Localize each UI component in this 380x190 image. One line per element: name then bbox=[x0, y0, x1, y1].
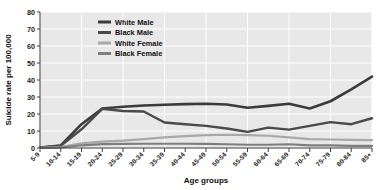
y-axis-label: Suicide rate per 100,000 bbox=[4, 34, 13, 126]
y-tick-label: 50 bbox=[27, 59, 35, 68]
y-tick-label: 30 bbox=[27, 93, 35, 102]
chart-figure: 01020304050607080 5-910-1415-1920-2425-2… bbox=[0, 0, 380, 190]
y-tick-label: 20 bbox=[27, 110, 35, 119]
legend-label-black-female: Black Female bbox=[115, 49, 162, 58]
legend-label-white-male: White Male bbox=[115, 18, 154, 27]
y-tick-label: 40 bbox=[27, 76, 35, 85]
suicide-rate-line-chart: 01020304050607080 5-910-1415-1920-2425-2… bbox=[0, 0, 380, 190]
y-axis-ticks: 01020304050607080 bbox=[27, 8, 40, 153]
y-tick-label: 10 bbox=[27, 127, 35, 136]
y-tick-label: 70 bbox=[27, 25, 35, 34]
legend-label-white-female: White Female bbox=[115, 39, 163, 48]
y-tick-label: 60 bbox=[27, 42, 35, 51]
legend-label-black-male: Black Male bbox=[115, 28, 153, 37]
x-axis-label: Age groups bbox=[184, 176, 229, 185]
y-tick-label: 80 bbox=[27, 8, 35, 17]
